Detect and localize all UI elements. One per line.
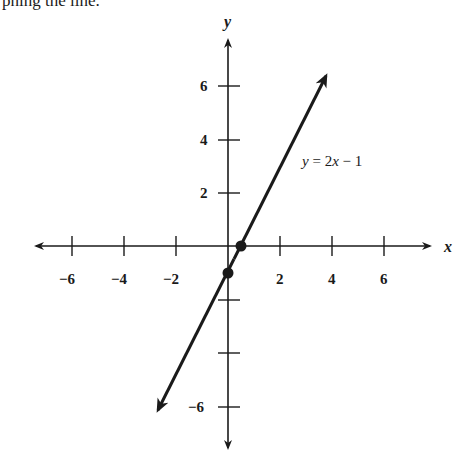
y-axis-label: y — [222, 13, 232, 31]
equation-label: y = 2x − 1 — [300, 153, 362, 169]
y-axis: 6 4 2 −6 y — [188, 13, 240, 448]
y-tick-label: 2 — [200, 185, 208, 201]
x-tick-label: 6 — [380, 271, 388, 287]
x-tick-label: −4 — [111, 271, 128, 287]
x-tick-label: 4 — [328, 271, 336, 287]
x-tick-label: −2 — [163, 271, 179, 287]
x-axis-label: x — [443, 238, 452, 255]
chart-canvas: −6 −4 −2 2 4 6 x 6 4 2 −6 y y = 2x − 1 — [0, 0, 471, 461]
x-tick-label: −6 — [59, 271, 76, 287]
y-tick-label: 6 — [200, 78, 208, 94]
y-tick-label: 4 — [200, 132, 208, 148]
y-intercept-point — [223, 268, 234, 279]
x-intercept-point — [236, 241, 247, 252]
x-tick-label: 2 — [276, 271, 284, 287]
y-tick-label: −6 — [188, 399, 205, 415]
